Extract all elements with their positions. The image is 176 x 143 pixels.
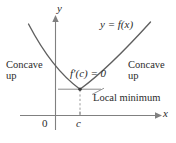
derivative-label: f′(c) = 0 [70, 68, 106, 80]
y-axis-arrowhead [52, 15, 58, 22]
y-axis-label: y [57, 3, 62, 15]
concave-up-left-label: Concave up [6, 59, 50, 81]
calculus-figure: y x 0 c y = f(x) f′(c) = 0 Concave up Co… [0, 0, 176, 143]
x-axis-label: x [163, 108, 168, 120]
function-label: y = f(x) [100, 19, 133, 31]
origin-label: 0 [42, 118, 48, 130]
local-minimum-label: Local minimum [93, 92, 160, 103]
critical-point-label: c [76, 118, 81, 130]
concave-up-right-label: Concave up [128, 59, 172, 81]
y-axis [52, 15, 58, 130]
local-minimum-point [78, 88, 81, 91]
x-axis-arrowhead [155, 112, 162, 118]
